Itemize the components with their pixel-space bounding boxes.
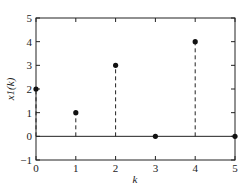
data-markers	[33, 39, 237, 139]
plot-border	[36, 18, 235, 160]
data-point-marker	[73, 110, 78, 115]
y-tick-labels: −1012345	[20, 12, 32, 166]
data-point-marker	[153, 134, 158, 139]
data-point-marker	[33, 86, 38, 91]
x-tick-label: 3	[153, 162, 159, 174]
x-tick-label: 4	[192, 162, 198, 174]
x-tick-label: 0	[33, 162, 39, 174]
data-stems	[36, 42, 195, 137]
x-tick-label: 5	[232, 162, 238, 174]
y-tick-label: 0	[27, 130, 33, 142]
stem-plot: −1012345 012345 k x1(k)	[0, 0, 245, 190]
y-tick-label: 1	[27, 107, 33, 119]
data-point-marker	[113, 63, 118, 68]
plot-frame	[36, 18, 235, 160]
y-tick-label: −1	[20, 154, 32, 166]
y-tick-label: 5	[27, 12, 33, 24]
x-tick-label: 2	[113, 162, 119, 174]
y-tick-label: 2	[27, 83, 33, 95]
x-tick-label: 1	[73, 162, 79, 174]
axis-ticks	[36, 18, 235, 160]
data-point-marker	[232, 134, 237, 139]
y-axis-label: x1(k)	[4, 77, 17, 101]
y-tick-label: 4	[27, 36, 33, 48]
data-point-marker	[193, 39, 198, 44]
x-axis-label: k	[133, 173, 139, 185]
y-tick-label: 3	[27, 59, 33, 71]
